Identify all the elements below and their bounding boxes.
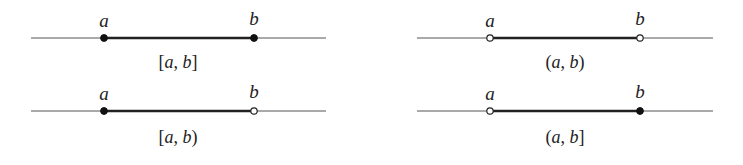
separator: ,	[174, 127, 183, 147]
endpoint-label-b: b	[249, 82, 259, 101]
endpoint-label-b: b	[635, 9, 645, 28]
closed-endpoint-b-icon	[251, 35, 258, 42]
number-line-closed-closed	[31, 35, 326, 42]
separator: ,	[561, 52, 570, 72]
open-endpoint-a-icon	[487, 108, 493, 114]
right-bracket: ]	[579, 127, 585, 147]
interval-notation-closed-open: [a, b)	[159, 128, 198, 146]
endpoint-label-a: a	[485, 84, 495, 103]
endpoint-label-a: a	[99, 11, 109, 30]
var-a: a	[552, 127, 561, 147]
right-bracket: )	[579, 52, 585, 72]
closed-endpoint-b-icon	[637, 108, 644, 115]
var-b: b	[570, 52, 579, 72]
var-b: b	[183, 52, 192, 72]
endpoint-label-a: a	[485, 11, 495, 30]
var-b: b	[570, 127, 579, 147]
endpoint-label-a: a	[99, 84, 109, 103]
var-a: a	[165, 52, 174, 72]
number-line-closed-open	[31, 108, 326, 115]
closed-endpoint-a-icon	[101, 108, 108, 115]
interval-notation-closed-closed: [a, b]	[159, 53, 198, 71]
interval-notation-open-open: (a, b)	[546, 53, 585, 71]
interval-diagrams	[0, 0, 743, 165]
number-line-open-open	[417, 35, 713, 41]
separator: ,	[561, 127, 570, 147]
interval-notation-open-closed: (a, b]	[546, 128, 585, 146]
open-endpoint-a-icon	[487, 35, 493, 41]
endpoint-label-b: b	[635, 82, 645, 101]
var-a: a	[165, 127, 174, 147]
separator: ,	[174, 52, 183, 72]
endpoint-label-b: b	[249, 9, 259, 28]
open-endpoint-b-icon	[251, 108, 257, 114]
open-endpoint-b-icon	[637, 35, 643, 41]
right-bracket: )	[192, 127, 198, 147]
var-b: b	[183, 127, 192, 147]
var-a: a	[552, 52, 561, 72]
right-bracket: ]	[192, 52, 198, 72]
closed-endpoint-a-icon	[101, 35, 108, 42]
number-line-open-closed	[417, 108, 713, 115]
